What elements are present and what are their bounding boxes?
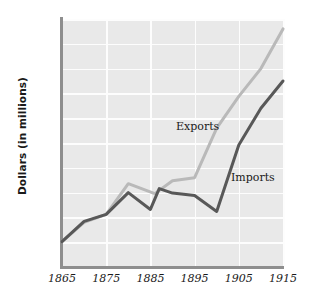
chart-container: Dollars (in millions) 250500750100012501… (0, 0, 309, 299)
series-line-imports (62, 81, 283, 242)
series-label-imports: Imports (231, 171, 275, 184)
data-series-lines (0, 0, 309, 299)
series-line-exports (62, 29, 283, 242)
series-label-exports: Exports (176, 120, 219, 133)
